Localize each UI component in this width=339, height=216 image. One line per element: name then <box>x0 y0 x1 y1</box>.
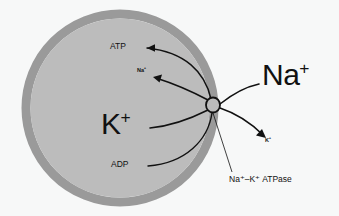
label-sodium-intracellular-charge: + <box>144 66 146 70</box>
label-potassium-extracellular-charge: + <box>269 136 271 140</box>
label-potassium-intracellular-charge: + <box>121 107 131 127</box>
cell-membrane-pump-diagram: ATP ADP Na+ K+ Na+ K+ Na⁺–K⁺ ATPase <box>0 0 339 216</box>
label-atp: ATP <box>110 42 126 51</box>
label-potassium-intracellular-base: K <box>101 107 121 140</box>
pump-caption: Na⁺–K⁺ ATPase <box>229 175 292 184</box>
label-sodium-intracellular-base: Na <box>137 67 144 73</box>
label-potassium-intracellular: K+ <box>101 109 130 139</box>
pump-caption-leader-line <box>213 113 232 172</box>
label-sodium-extracellular: Na+ <box>262 60 309 90</box>
arrow-potassium-outward <box>220 108 263 135</box>
label-sodium-intracellular: Na+ <box>137 68 146 74</box>
label-sodium-extracellular-base: Na <box>262 58 299 91</box>
label-adp: ADP <box>111 160 128 169</box>
label-sodium-extracellular-charge: + <box>299 58 309 78</box>
label-potassium-extracellular: K+ <box>265 138 271 144</box>
arrow-sodium-inbound <box>220 84 259 104</box>
sodium-potassium-pump-icon <box>206 98 220 113</box>
